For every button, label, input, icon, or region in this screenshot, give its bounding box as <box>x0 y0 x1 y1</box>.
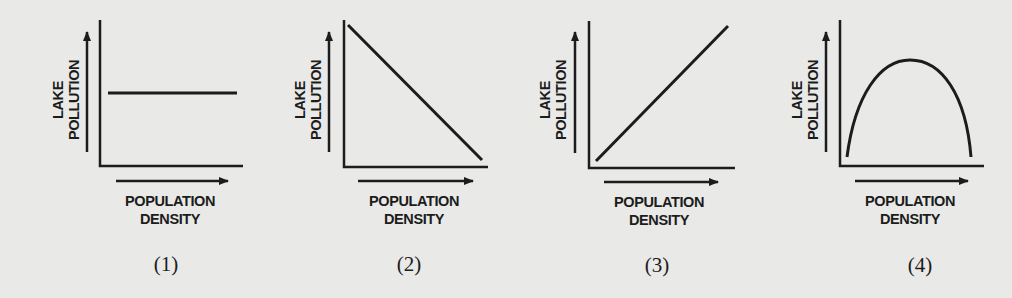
graph-4: LAKE POLLUTION POPULATION DENSITY (4) <box>789 20 984 277</box>
x-label-line-1: POPULATION <box>614 194 704 210</box>
x-label-line-2: DENSITY <box>140 211 201 227</box>
y-label-line-2: POLLUTION <box>66 60 82 140</box>
y-axis-label: LAKE POLLUTION <box>537 60 569 140</box>
graph-3: LAKE POLLUTION POPULATION DENSITY (3) <box>537 21 735 277</box>
y-axis-label: LAKE POLLUTION <box>292 60 324 140</box>
x-label-line-2: DENSITY <box>629 212 690 228</box>
graph-number-label: (4) <box>908 253 933 277</box>
x-label-line-2: DENSITY <box>880 211 941 227</box>
y-axis-label: LAKE POLLUTION <box>50 60 82 140</box>
y-label-line-2: POLLUTION <box>553 60 569 140</box>
data-curve-arch <box>847 60 971 157</box>
y-label-line-1: LAKE <box>292 80 308 119</box>
axes <box>840 20 984 166</box>
graph-1: LAKE POLLUTION POPULATION DENSITY (1) <box>50 20 243 276</box>
y-label-line-2: POLLUTION <box>805 60 821 140</box>
graph-choices-panel: LAKE POLLUTION POPULATION DENSITY (1) LA… <box>0 0 1012 298</box>
y-label-line-1: LAKE <box>537 80 553 119</box>
graph-number-label: (1) <box>154 252 179 276</box>
x-label-line-1: POPULATION <box>865 193 955 209</box>
x-label-line-2: DENSITY <box>384 211 445 227</box>
data-line-decreasing <box>348 25 482 160</box>
x-label-line-1: POPULATION <box>125 193 215 209</box>
graph-number-label: (2) <box>397 252 422 276</box>
graph-number-label: (3) <box>645 253 670 277</box>
y-label-line-1: LAKE <box>50 80 66 119</box>
graphs-svg: LAKE POLLUTION POPULATION DENSITY (1) LA… <box>0 0 1012 298</box>
x-label-line-1: POPULATION <box>369 193 459 209</box>
y-label-line-1: LAKE <box>789 80 805 119</box>
y-label-line-2: POLLUTION <box>308 60 324 140</box>
data-line-increasing <box>596 26 728 161</box>
graph-2: LAKE POLLUTION POPULATION DENSITY (2) <box>292 20 488 276</box>
y-axis-label: LAKE POLLUTION <box>789 60 821 140</box>
